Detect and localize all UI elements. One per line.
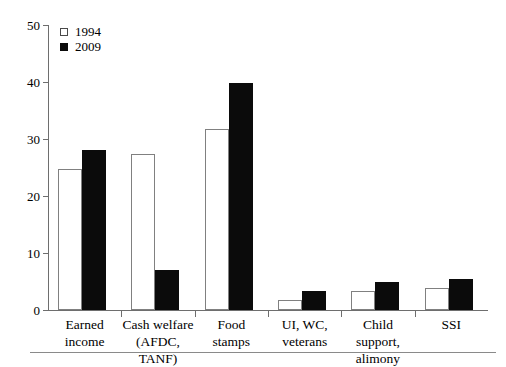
y-tick-label: 10 (10, 247, 40, 260)
x-tick-mark (121, 311, 122, 317)
x-category-label-line: UI, WC, (282, 317, 328, 332)
plot-area (48, 25, 488, 310)
x-category-label-line: (AFDC, TANF) (121, 333, 194, 367)
bar-group (341, 25, 414, 310)
x-category-label: Foodstamps (195, 316, 268, 350)
bar-1994 (205, 129, 229, 310)
bottom-divider (30, 352, 496, 353)
y-tick-mark (43, 196, 49, 197)
x-category-label-line: Cash welfare (123, 317, 194, 332)
bar-2009 (302, 291, 326, 310)
y-axis-tick-labels: 01020304050 (0, 0, 40, 358)
y-tick-label: 30 (10, 133, 40, 146)
x-tick-mark (341, 311, 342, 317)
bar-group (268, 25, 341, 310)
y-tick-label: 0 (10, 304, 40, 317)
bar-group (48, 25, 121, 310)
y-tick-label: 40 (10, 76, 40, 89)
y-tick-mark (43, 82, 49, 83)
x-category-label-line: stamps (195, 333, 268, 350)
bar-2009 (229, 83, 253, 310)
bar-2009 (82, 150, 106, 310)
x-category-label: Cash welfare(AFDC, TANF) (121, 316, 194, 367)
x-tick-mark (195, 311, 196, 317)
bar-2009 (449, 279, 473, 310)
y-tick-label: 50 (10, 19, 40, 32)
bar-group (121, 25, 194, 310)
bar-1994 (278, 300, 302, 310)
x-category-label-line: Earned (66, 317, 104, 332)
x-category-label: Child support,alimony (341, 316, 414, 367)
bar-2009 (155, 270, 179, 310)
y-tick-mark (43, 25, 49, 26)
bar-1994 (131, 154, 155, 310)
bar-group (415, 25, 488, 310)
x-category-label-line: Food (217, 317, 245, 332)
bar-2009 (375, 282, 399, 311)
x-category-label-line: veterans (268, 333, 341, 350)
x-category-label-line: SSI (442, 317, 462, 332)
x-axis-category-labels: EarnedincomeCash welfare(AFDC, TANF)Food… (48, 316, 488, 356)
y-tick-label: 20 (10, 190, 40, 203)
x-category-label: Earnedincome (48, 316, 121, 350)
bar-1994 (425, 288, 449, 310)
y-tick-mark (43, 310, 49, 311)
y-tick-mark (43, 139, 49, 140)
x-category-label-line: income (48, 333, 121, 350)
x-category-label-line: Child support, (356, 317, 400, 349)
x-category-label: SSI (415, 316, 488, 333)
bar-group (195, 25, 268, 310)
x-tick-mark (415, 311, 416, 317)
y-tick-mark (43, 253, 49, 254)
bar-1994 (58, 169, 82, 310)
x-tick-mark (268, 311, 269, 317)
x-category-label: UI, WC,veterans (268, 316, 341, 350)
bar-1994 (351, 291, 375, 310)
